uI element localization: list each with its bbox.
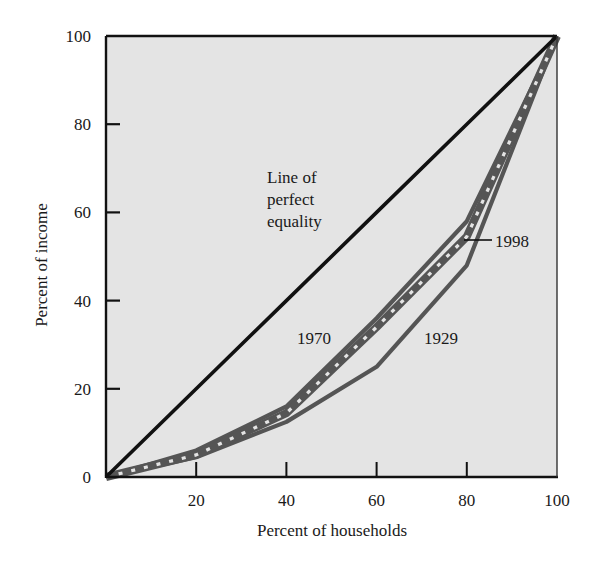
label-1929: 1929 <box>424 329 458 348</box>
x-tick-label: 60 <box>368 491 385 510</box>
y-axis-label: Percent of income <box>32 203 51 327</box>
y-tick-label: 0 <box>83 468 92 487</box>
equality-annotation: Line of perfect equality <box>267 168 322 231</box>
y-tick-label: 80 <box>74 115 91 134</box>
y-tick-label: 20 <box>74 380 91 399</box>
y-tick-label: 40 <box>74 292 91 311</box>
x-tick-label: 20 <box>188 491 205 510</box>
x-axis-label: Percent of households <box>257 521 407 540</box>
x-tick-label: 100 <box>544 491 570 510</box>
equality-label-line3: equality <box>267 212 322 231</box>
lorenz-chart: 02040608010020406080100 Percent of incom… <box>0 0 605 565</box>
y-tick-label: 100 <box>66 27 92 46</box>
x-tick-label: 40 <box>278 491 295 510</box>
label-1970: 1970 <box>297 329 331 348</box>
equality-label-line2: perfect <box>267 190 314 209</box>
x-tick-label: 80 <box>458 491 475 510</box>
y-tick-label: 60 <box>74 203 91 222</box>
equality-label-line1: Line of <box>267 168 317 187</box>
label-1998: 1998 <box>495 232 529 251</box>
